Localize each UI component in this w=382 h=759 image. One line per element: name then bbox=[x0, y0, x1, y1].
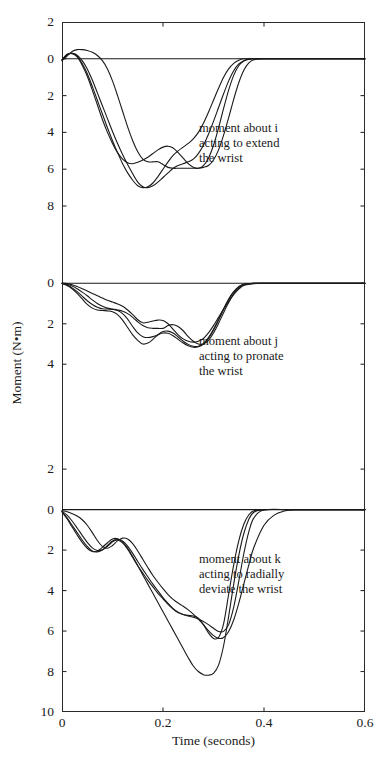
x-tick-label: 0.6 bbox=[357, 716, 374, 730]
annotation-moment-k: moment about kacting to radiallydeviate … bbox=[199, 552, 284, 598]
y-tick-label: 2 bbox=[47, 543, 54, 557]
wrist-moment-figure: 20246802420246810 Moment (N•m) Time (sec… bbox=[0, 0, 382, 759]
annotation-moment-i: moment about iacting to extendthe wrist bbox=[199, 121, 279, 167]
x-tick-label: 0.2 bbox=[155, 716, 172, 730]
y-tick-label: 4 bbox=[47, 584, 54, 598]
y-tick-label: 0 bbox=[47, 52, 54, 66]
annotation-line: moment about i bbox=[199, 121, 279, 136]
annotation-line: deviate the wrist bbox=[199, 582, 284, 597]
y-tick-label: 0 bbox=[47, 503, 54, 517]
y-tick-label: 2 bbox=[47, 15, 54, 29]
annotation-line: acting to radially bbox=[199, 567, 284, 582]
y-tick-label: 4 bbox=[47, 357, 54, 371]
annotation-line: moment about k bbox=[199, 552, 284, 567]
annotation-line: acting to extend bbox=[199, 136, 279, 151]
annotation-line: the wrist bbox=[199, 364, 284, 379]
y-tick-label: 6 bbox=[47, 624, 54, 638]
y-tick-label: 4 bbox=[47, 125, 54, 139]
annotation-line: the wrist bbox=[199, 151, 279, 166]
x-tick-label: 0 bbox=[59, 716, 66, 730]
y-tick-label: 8 bbox=[47, 199, 54, 213]
y-tick-label: 8 bbox=[47, 665, 54, 679]
y-tick-label: 0 bbox=[47, 276, 54, 290]
y-tick-label: 2 bbox=[47, 317, 54, 331]
annotation-line: moment about j bbox=[199, 334, 284, 349]
y-tick-label: 10 bbox=[41, 705, 55, 719]
x-tick-label: 0.4 bbox=[256, 716, 273, 730]
y-tick-label: 6 bbox=[47, 162, 54, 176]
annotation-moment-j: moment about jacting to pronatethe wrist bbox=[199, 334, 284, 380]
y-axis-title: Moment (N•m) bbox=[9, 298, 25, 428]
y-tick-label: 2 bbox=[47, 89, 54, 103]
y-tick-label: 2 bbox=[47, 462, 54, 476]
x-axis-title: Time (seconds) bbox=[62, 733, 365, 749]
annotation-line: acting to pronate bbox=[199, 349, 284, 364]
